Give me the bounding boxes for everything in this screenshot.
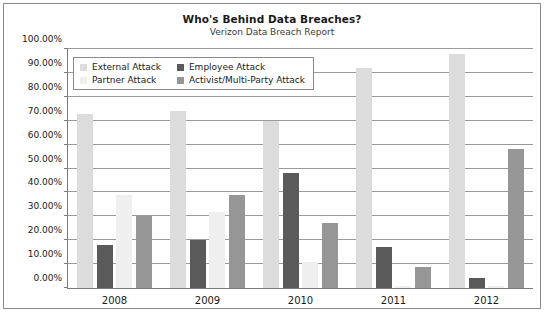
bar — [449, 54, 465, 288]
bar — [97, 245, 113, 288]
bar — [136, 216, 152, 288]
bar — [415, 267, 431, 289]
bar — [469, 278, 485, 288]
legend-entry: Employee Attack — [177, 62, 305, 72]
x-axis-tick-label: 2011 — [347, 295, 440, 306]
legend-entry: Partner Attack — [80, 75, 161, 85]
bar — [283, 173, 299, 288]
bar — [263, 121, 279, 288]
legend-label: Activist/Multi-Party Attack — [189, 75, 305, 85]
legend-entry: External Attack — [80, 62, 161, 72]
y-axis-tick-label: 90.00% — [28, 58, 62, 68]
bar — [508, 149, 524, 288]
bar — [302, 262, 318, 288]
legend-swatch-icon — [80, 64, 87, 71]
chart-legend: External AttackEmployee AttackPartner At… — [73, 57, 314, 90]
legend-label: External Attack — [92, 62, 161, 72]
legend-label: Partner Attack — [92, 75, 156, 85]
y-axis-tick-label: 40.00% — [28, 177, 62, 187]
bar — [488, 286, 504, 288]
bar-group: 2012 — [440, 49, 533, 288]
bar — [395, 286, 411, 288]
bar — [322, 223, 338, 288]
bar — [209, 212, 225, 288]
x-axis-tick-label: 2012 — [440, 295, 533, 306]
bar — [116, 195, 132, 288]
y-axis-tick-label: 50.00% — [28, 154, 62, 164]
y-axis-tick-label: 100.00% — [22, 34, 62, 44]
bar — [170, 111, 186, 288]
y-axis-tick-label: 80.00% — [28, 82, 62, 92]
chart-subtitle: Verizon Data Breach Report — [4, 27, 540, 37]
y-axis-tick-label: 60.00% — [28, 130, 62, 140]
bar — [190, 240, 206, 288]
legend-label: Employee Attack — [189, 62, 265, 72]
bar — [229, 195, 245, 288]
legend-swatch-icon — [80, 77, 87, 84]
x-axis-tick-label: 2008 — [68, 295, 161, 306]
bar — [77, 114, 93, 288]
bar-group: 2011 — [347, 49, 440, 288]
y-axis-tick-label: 30.00% — [28, 201, 62, 211]
y-axis-tick-label: 10.00% — [28, 249, 62, 259]
y-axis-tick-label: 0.00% — [33, 273, 62, 283]
legend-entry: Activist/Multi-Party Attack — [177, 75, 305, 85]
bar — [376, 247, 392, 288]
chart-title: Who's Behind Data Breaches? — [4, 13, 540, 25]
legend-swatch-icon — [177, 64, 184, 71]
y-axis-tick-label: 20.00% — [28, 225, 62, 235]
y-axis-tick-label: 70.00% — [28, 106, 62, 116]
bar — [356, 68, 372, 288]
x-axis-tick-label: 2009 — [161, 295, 254, 306]
x-axis-tick-label: 2010 — [254, 295, 347, 306]
chart-frame: Who's Behind Data Breaches? Verizon Data… — [3, 3, 541, 309]
legend-swatch-icon — [177, 77, 184, 84]
